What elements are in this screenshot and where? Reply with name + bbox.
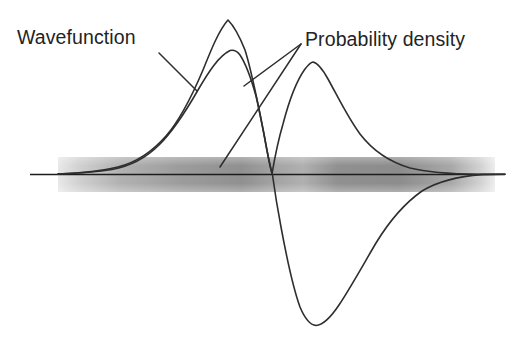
wavefunction-leader-line	[159, 53, 197, 91]
probability-density-label: Probability density	[305, 30, 465, 50]
wavefunction-label: Wavefunction	[17, 28, 136, 48]
diagram-canvas	[0, 0, 529, 353]
probability-density-leader-line-upper	[244, 44, 301, 86]
physics-diagram-figure: Wavefunction Probability density	[0, 0, 529, 353]
